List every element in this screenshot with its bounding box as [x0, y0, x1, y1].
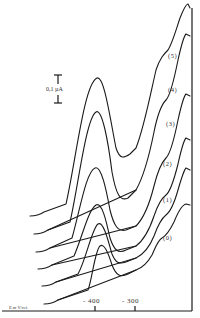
voltammogram-chart: - 400 - 300 E m V/ref. 0,1 µA (0) (1) (2…: [0, 0, 200, 318]
curve-label-2: (2): [163, 160, 172, 168]
tick-label-300: - 300: [122, 297, 139, 305]
curve-label-0: (0): [163, 234, 172, 242]
curve-2: [38, 138, 190, 269]
curve-3: [36, 94, 190, 252]
curve-label-3: (3): [166, 120, 175, 128]
curve-label-4: (4): [168, 86, 177, 94]
curve-4: [34, 34, 190, 234]
x-axis-label: E m V/ref.: [9, 305, 28, 310]
curve-label-5: (5): [168, 52, 177, 60]
curve-label-1: (1): [163, 196, 172, 204]
scale-bar: 0,1 µA: [46, 75, 63, 103]
tick-label-400: - 400: [83, 297, 100, 305]
curve-0: [44, 204, 190, 304]
scale-bar-label: 0,1 µA: [46, 86, 63, 92]
curve-5: [30, 4, 190, 216]
baselines: [48, 190, 136, 300]
